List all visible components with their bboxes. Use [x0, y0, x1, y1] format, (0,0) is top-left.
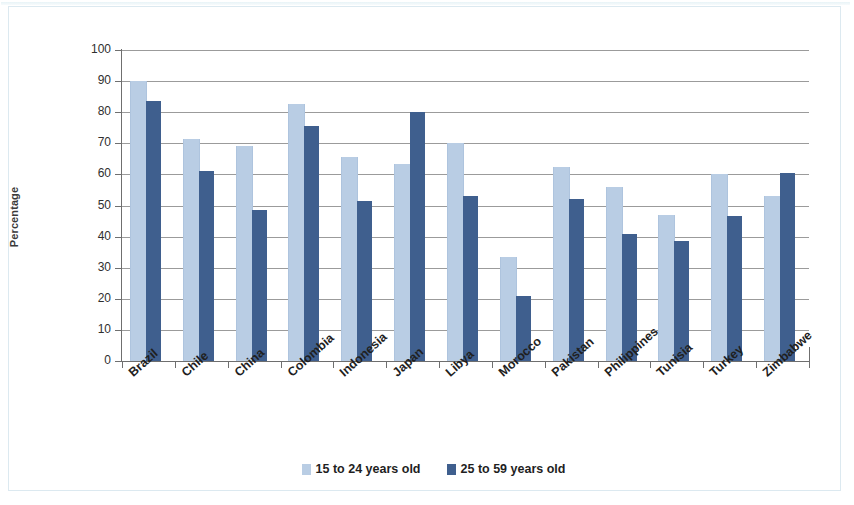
x-tick-mark-12: [756, 362, 757, 368]
y-tick-label-40: 40: [67, 229, 111, 243]
bar-indonesia-series-2: [357, 201, 372, 361]
y-tick-mark-0: [115, 361, 122, 362]
gridline-90: [122, 81, 809, 82]
y-tick-mark-60: [115, 174, 122, 175]
bar-philippines-series-1: [606, 187, 623, 361]
chart-legend: 15 to 24 years old25 to 59 years old: [9, 462, 854, 476]
bar-brazil-series-1: [130, 81, 147, 361]
bar-colombia-series-1: [288, 104, 305, 361]
legend-item-2: 25 to 59 years old: [447, 462, 566, 476]
legend-swatch-icon-2: [447, 464, 456, 475]
y-axis-title: Percentage: [8, 157, 20, 277]
bar-china-series-2: [252, 210, 267, 361]
y-tick-mark-40: [115, 237, 122, 238]
y-tick-label-50: 50: [67, 198, 111, 212]
bar-china-series-1: [236, 146, 253, 361]
bar-libya-series-2: [463, 196, 478, 361]
bar-japan-series-2: [410, 112, 425, 361]
x-tick-mark-10: [650, 362, 651, 368]
x-tick-mark-8: [545, 362, 546, 368]
legend-swatch-icon-1: [302, 464, 311, 475]
y-tick-label-70: 70: [67, 135, 111, 149]
x-tick-mark-0: [122, 362, 123, 368]
x-tick-mark-7: [492, 362, 493, 368]
x-axis-right-cap: [809, 347, 810, 362]
x-tick-mark-9: [598, 362, 599, 368]
bar-zimbabwe-series-1: [764, 196, 781, 361]
y-tick-label-0: 0: [67, 353, 111, 367]
y-tick-label-80: 80: [67, 104, 111, 118]
y-tick-mark-80: [115, 112, 122, 113]
x-tick-mark-5: [386, 362, 387, 368]
bar-indonesia-series-1: [341, 157, 358, 361]
y-tick-mark-90: [115, 81, 122, 82]
bar-tunisia-series-1: [658, 215, 675, 361]
bar-japan-series-1: [394, 164, 411, 361]
bar-turkey-series-1: [711, 174, 728, 361]
bar-libya-series-1: [447, 143, 464, 361]
plot-area: [122, 50, 809, 361]
gridline-100: [122, 50, 809, 51]
legend-label-1: 15 to 24 years old: [316, 462, 421, 476]
y-tick-mark-70: [115, 143, 122, 144]
bar-morocco-series-1: [500, 257, 517, 361]
legend-item-1: 15 to 24 years old: [302, 462, 421, 476]
y-tick-mark-10: [115, 330, 122, 331]
bar-colombia-series-2: [304, 126, 319, 361]
bar-turkey-series-2: [727, 216, 742, 361]
legend-label-2: 25 to 59 years old: [461, 462, 566, 476]
bar-chile-series-1: [183, 139, 200, 361]
bar-pakistan-series-2: [569, 199, 584, 361]
gridline-70: [122, 143, 809, 144]
x-tick-mark-13: [809, 362, 810, 368]
y-tick-mark-30: [115, 268, 122, 269]
x-tick-mark-2: [228, 362, 229, 368]
y-tick-label-30: 30: [67, 260, 111, 274]
bar-zimbabwe-series-2: [780, 173, 795, 361]
y-tick-label-60: 60: [67, 166, 111, 180]
bar-chart: Percentage 1009080706050403020100 Brazil…: [9, 7, 854, 505]
gridline-80: [122, 112, 809, 113]
y-tick-label-10: 10: [67, 322, 111, 336]
x-tick-mark-11: [703, 362, 704, 368]
figure-frame: Percentage 1009080706050403020100 Brazil…: [8, 6, 841, 491]
y-tick-label-90: 90: [67, 73, 111, 87]
bar-brazil-series-2: [146, 101, 161, 361]
x-tick-mark-6: [439, 362, 440, 368]
y-tick-mark-50: [115, 206, 122, 207]
bar-pakistan-series-1: [553, 167, 570, 361]
gridline-60: [122, 174, 809, 175]
y-tick-mark-20: [115, 299, 122, 300]
x-tick-mark-4: [333, 362, 334, 368]
y-tick-mark-100: [115, 50, 122, 51]
y-tick-label-100: 100: [67, 42, 111, 56]
bar-chile-series-2: [199, 171, 214, 361]
x-tick-mark-3: [281, 362, 282, 368]
x-tick-mark-1: [175, 362, 176, 368]
y-tick-label-20: 20: [67, 291, 111, 305]
